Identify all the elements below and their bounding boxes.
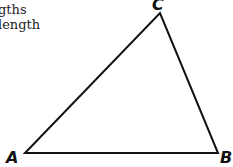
triangle-diagram: A B C <box>0 0 233 167</box>
vertex-label-a: A <box>4 148 18 167</box>
triangle-abc <box>25 13 218 153</box>
vertex-label-c: C <box>152 0 164 14</box>
vertex-label-b: B <box>220 148 232 167</box>
